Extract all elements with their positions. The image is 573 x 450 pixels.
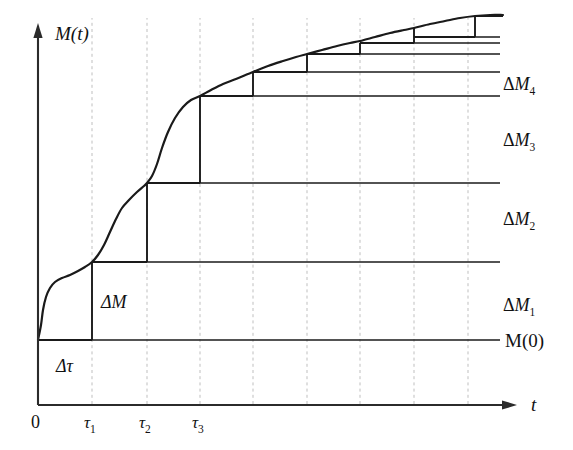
increment-label-dm3: ΔM3 xyxy=(503,130,536,153)
y-axis-label: M(t) xyxy=(54,23,89,45)
gridlines-group xyxy=(92,18,468,404)
x-tick-label-tau3: τ3 xyxy=(192,413,204,435)
increment-label-dm1: ΔM1 xyxy=(503,295,536,318)
x-tick-label-tau2: τ2 xyxy=(139,413,151,435)
y-axis-arrowhead xyxy=(33,23,42,38)
x-axis-label: t xyxy=(531,394,537,415)
x-tick-label-tau1: τ1 xyxy=(84,413,96,435)
baseline-label: M(0) xyxy=(505,330,544,352)
origin-label: 0 xyxy=(31,412,40,432)
delta-m-label: ΔM xyxy=(100,292,128,312)
delta-tau-label: Δτ xyxy=(55,356,74,376)
increment-label-dm2: ΔM2 xyxy=(503,209,536,232)
labels-group: M(t) t 0 τ1 τ2 τ3 Δτ ΔM ΔM1 ΔM2 ΔM3 ΔM4 … xyxy=(31,23,544,435)
x-axis-arrowhead xyxy=(502,400,517,409)
increment-label-dm4: ΔM4 xyxy=(503,74,536,97)
axes-group xyxy=(33,23,517,410)
figure-canvas: M(t) t 0 τ1 τ2 τ3 Δτ ΔM ΔM1 ΔM2 ΔM3 ΔM4 … xyxy=(0,0,573,450)
mass-growth-staircase-chart: M(t) t 0 τ1 τ2 τ3 Δτ ΔM ΔM1 ΔM2 ΔM3 ΔM4 … xyxy=(0,0,573,450)
